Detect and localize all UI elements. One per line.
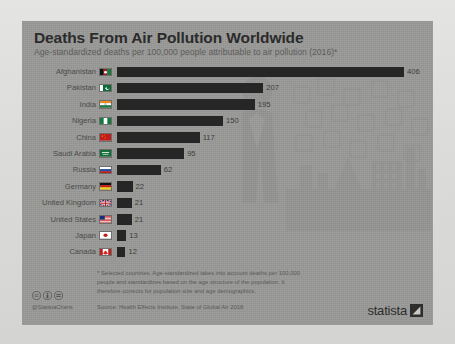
bar	[117, 132, 200, 143]
country-label: Nigeria	[22, 116, 96, 125]
country-label: India	[22, 100, 96, 109]
flag-afghanistan-icon	[99, 68, 112, 77]
bar	[117, 165, 161, 176]
footnote-text: * Selected countries. Age-standardized t…	[97, 269, 307, 296]
chart-row: Russia62	[22, 163, 433, 179]
chart-row: Germany22	[22, 180, 433, 196]
flag-united-states-icon	[99, 215, 112, 224]
bar-value-label: 117	[203, 133, 215, 142]
bar-value-label: 406	[407, 67, 420, 76]
source-text: Source: Health Effects Institute, State …	[97, 304, 243, 310]
chart-row: Japan13	[22, 229, 433, 245]
bar	[117, 230, 126, 241]
bar	[117, 67, 404, 78]
flag-canada-icon	[99, 248, 112, 257]
statista-logo: statista	[367, 303, 423, 318]
flag-india-icon	[99, 100, 112, 109]
flag-saudi-arabia-icon	[99, 149, 112, 158]
bar	[117, 247, 125, 258]
creative-commons-badges: cc	[32, 291, 63, 300]
cc-nd-icon	[54, 291, 63, 300]
bar-value-label: 13	[129, 231, 137, 240]
page-title: Deaths From Air Pollution Worldwide	[34, 29, 303, 47]
chart-row: China117	[22, 131, 433, 147]
chart-row: Saudi Arabia95	[22, 147, 433, 163]
flag-japan-icon	[99, 231, 112, 240]
bar	[117, 148, 184, 159]
bar-value-label: 22	[136, 182, 144, 191]
country-label: Saudi Arabia	[22, 149, 96, 158]
country-label: Canada	[22, 247, 96, 256]
chart-row: Nigeria150	[22, 114, 433, 130]
statista-arrow-icon	[410, 304, 423, 317]
bar-value-label: 21	[135, 198, 143, 207]
bar-value-label: 150	[226, 116, 239, 125]
statista-infographic-panel: Deaths From Air Pollution Worldwide Age-…	[22, 21, 433, 325]
chart-row: India195	[22, 98, 433, 114]
bar-value-label: 95	[187, 149, 195, 158]
bar-chart: Afghanistan406Pakistan207India195Nigeria…	[22, 65, 433, 262]
bar-value-label: 21	[135, 215, 143, 224]
cc-by-icon	[43, 291, 52, 300]
bar	[117, 99, 255, 110]
flag-germany-icon	[99, 182, 112, 191]
flag-united-kingdom-icon	[99, 199, 112, 208]
country-label: Germany	[22, 182, 96, 191]
bar	[117, 83, 263, 94]
page-subtitle: Age-standardized deaths per 100,000 peop…	[34, 47, 337, 57]
infographic-root: Deaths From Air Pollution Worldwide Age-…	[0, 0, 455, 344]
bar	[117, 116, 223, 127]
country-label: United States	[22, 215, 96, 224]
chart-row: Canada12	[22, 245, 433, 261]
bar	[117, 198, 132, 209]
chart-row: Afghanistan406	[22, 65, 433, 81]
flag-pakistan-icon	[99, 84, 112, 93]
bar-value-label: 195	[258, 100, 271, 109]
country-label: Pakistan	[22, 83, 96, 92]
flag-china-icon	[99, 133, 112, 142]
flag-russia-icon	[99, 166, 112, 175]
country-label: Afghanistan	[22, 67, 96, 76]
flag-nigeria-icon	[99, 117, 112, 126]
bar	[117, 181, 133, 192]
bar-value-label: 62	[164, 165, 172, 174]
bar-value-label: 12	[128, 247, 136, 256]
country-label: Japan	[22, 231, 96, 240]
chart-row: Pakistan207	[22, 81, 433, 97]
country-label: Russia	[22, 165, 96, 174]
svg-text:cc: cc	[34, 293, 39, 298]
social-handle: @StatistaCharts	[32, 304, 73, 310]
chart-row: United Kingdom21	[22, 196, 433, 212]
country-label: United Kingdom	[22, 198, 96, 207]
bar	[117, 214, 132, 225]
cc-icon: cc	[32, 291, 41, 300]
bar-value-label: 207	[266, 83, 279, 92]
statista-wordmark: statista	[367, 303, 407, 318]
chart-row: United States21	[22, 213, 433, 229]
country-label: China	[22, 133, 96, 142]
